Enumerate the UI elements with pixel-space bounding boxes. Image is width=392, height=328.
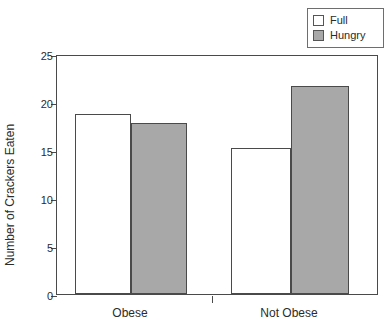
plot-area: 2520151050 xyxy=(56,55,378,295)
legend-item-hungry: Hungry xyxy=(313,28,377,43)
legend-label-full: Full xyxy=(330,15,348,26)
bar-obese-hungry xyxy=(131,123,187,294)
legend-swatch-hungry xyxy=(313,30,324,41)
bar-chart: Full Hungry Number of Crackers Eaten 252… xyxy=(0,0,392,328)
x-category-label-not-obese: Not Obese xyxy=(260,307,317,319)
bar-obese-full xyxy=(75,114,131,294)
legend-swatch-full xyxy=(313,15,324,26)
y-axis-title: Number of Crackers Eaten xyxy=(0,0,10,76)
bar-not-obese-hungry xyxy=(291,86,349,294)
y-axis-title-text: Number of Crackers Eaten xyxy=(4,66,16,266)
y-tick-label: 0 xyxy=(47,291,53,302)
bar-not-obese-full xyxy=(231,148,291,294)
legend-item-full: Full xyxy=(313,13,377,28)
y-tick-label: 20 xyxy=(41,99,53,110)
y-tick-label: 25 xyxy=(41,51,53,62)
x-axis-group-separator-tick xyxy=(212,296,213,303)
y-tick-label: 15 xyxy=(41,147,53,158)
x-category-label-obese: Obese xyxy=(112,307,147,319)
y-tick-label: 10 xyxy=(41,195,53,206)
plot-inner: 2520151050 xyxy=(57,56,377,294)
chart-legend: Full Hungry xyxy=(307,8,384,48)
x-axis: ObeseNot Obese xyxy=(56,296,378,326)
legend-label-hungry: Hungry xyxy=(330,30,365,41)
y-tick-label: 5 xyxy=(47,243,53,254)
